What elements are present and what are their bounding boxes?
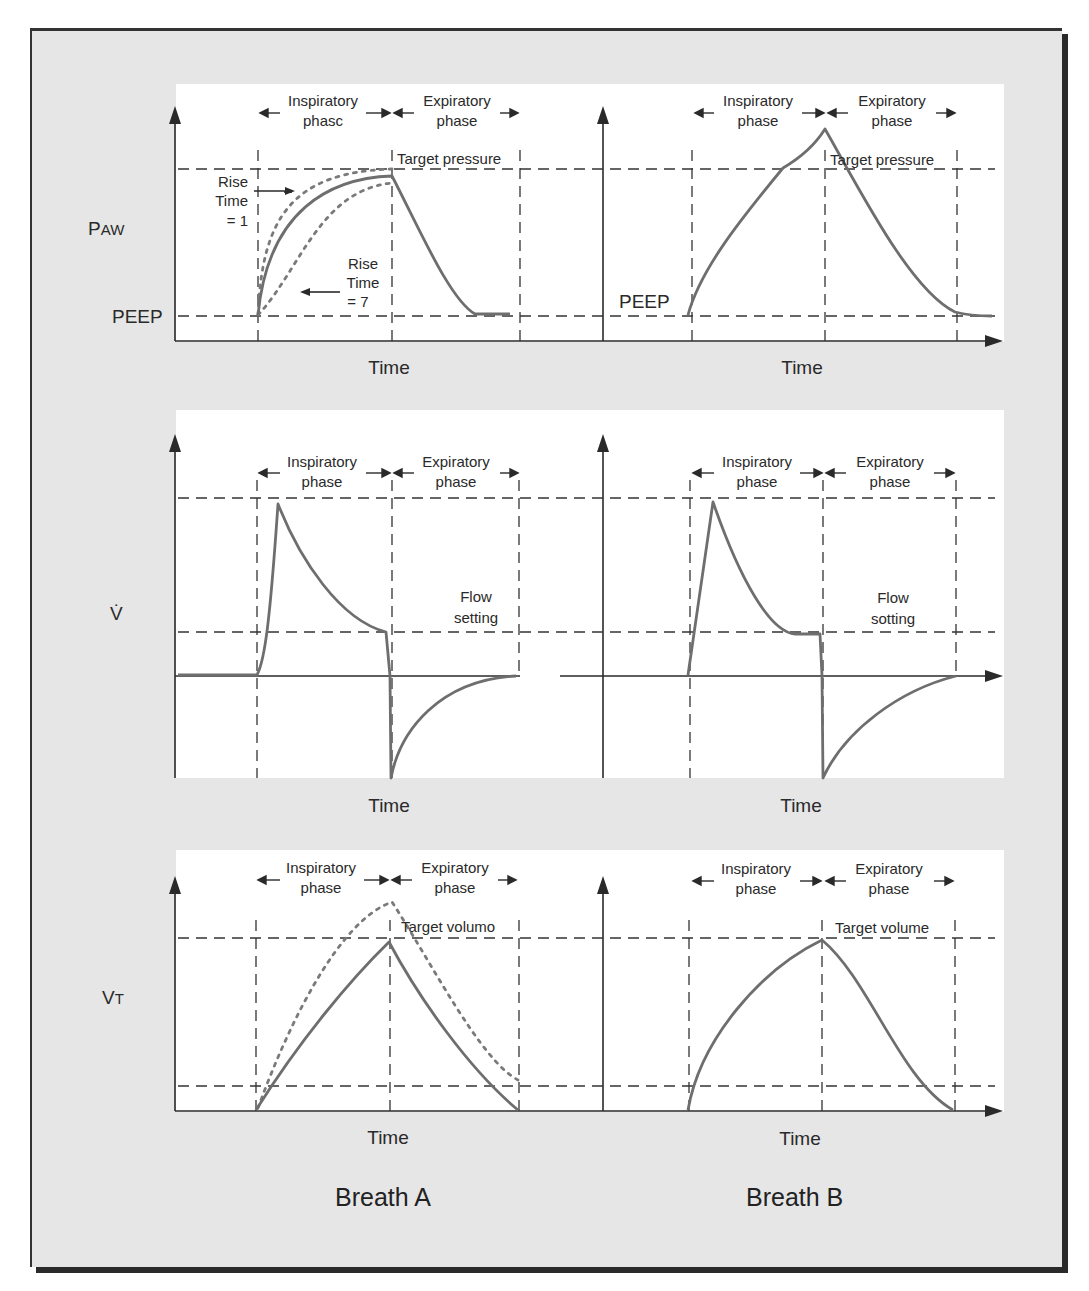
paw-panel	[176, 84, 1004, 342]
flow-y-label: V̇	[110, 603, 123, 625]
breath-a-caption: Breath A	[335, 1183, 431, 1212]
volume-y-label: VT	[102, 987, 124, 1009]
paw-y-label: PAW	[88, 218, 124, 240]
volume-panel	[176, 850, 1004, 1112]
breath-b-caption: Breath B	[746, 1183, 843, 1212]
flow-panel	[176, 410, 1004, 778]
